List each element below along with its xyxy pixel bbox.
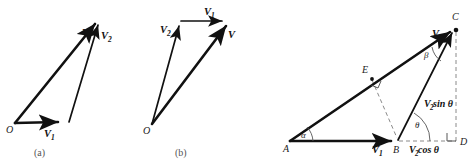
panel-b-label-v1: V 1: [204, 6, 215, 20]
panel-a-origin-label: O: [6, 124, 13, 135]
panel-b-label-v: V: [228, 29, 236, 40]
diagram-canvas: O V 1 V 2 V (a) O: [0, 0, 475, 167]
svg-text:1: 1: [379, 149, 383, 158]
panel-c-point-c-dot: [454, 28, 459, 33]
panel-c-point-e-dot: [370, 77, 374, 81]
svg-text:1: 1: [51, 133, 55, 142]
panel-c-point-e-label: E: [361, 64, 368, 75]
panel-c-right-angle-d: [447, 133, 456, 141]
panel-c-point-b-label: B: [393, 144, 399, 155]
svg-text:2: 2: [107, 35, 112, 44]
panel-a: O V 1 V 2 V (a): [6, 24, 112, 159]
panel-c-angle-beta-label: β: [423, 50, 429, 60]
svg-text:1: 1: [211, 11, 215, 20]
panel-c-label-v2-cos-theta: V 2 cos θ: [409, 144, 440, 158]
panel-c-dashed-eb: [372, 80, 397, 138]
panel-c-point-a-label: A: [282, 143, 290, 154]
vector-diagram-figure: O V 1 V 2 V (a) O: [0, 0, 475, 167]
panel-c-angle-theta-label: θ: [415, 120, 420, 130]
panel-a-label-v2: V 2: [101, 30, 112, 44]
panel-a-vector-v1: [15, 122, 58, 123]
panel-b-caption: (b): [175, 147, 187, 159]
panel-b: O V 1 V 2 V (b): [143, 6, 236, 159]
panel-b-origin-label: O: [143, 125, 150, 136]
svg-text:2: 2: [166, 29, 171, 38]
panel-c-label-v2-sin-theta: V 2 sin θ: [424, 98, 454, 112]
panel-b-vector-v: [152, 26, 226, 124]
panel-c: A B C D E α β θ V 1 V V 2 sin θ: [282, 11, 468, 158]
panel-a-label-v1: V 1: [44, 128, 55, 142]
panel-c-point-d-label: D: [459, 136, 468, 147]
panel-b-vector-v2: [152, 26, 179, 124]
panel-c-label-v: V: [432, 28, 440, 39]
panel-b-label-v2: V 2: [160, 24, 171, 38]
svg-text:cos θ: cos θ: [418, 144, 440, 155]
panel-c-point-c-label: C: [452, 11, 459, 22]
panel-c-angle-alpha-label: α: [301, 130, 306, 140]
panel-a-label-v: V: [82, 27, 90, 38]
svg-text:sin θ: sin θ: [432, 98, 454, 109]
panel-c-label-v1: V 1: [372, 144, 383, 158]
panel-a-caption: (a): [34, 147, 45, 159]
